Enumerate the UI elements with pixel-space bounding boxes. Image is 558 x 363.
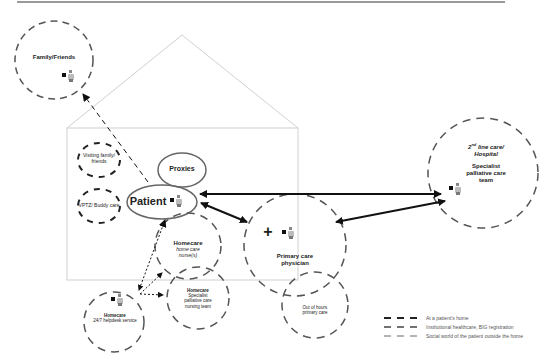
out-of-hours-line2: primary care [292, 310, 338, 315]
legend-label: At a patient's home [426, 315, 469, 321]
person-icon [111, 294, 123, 306]
person-icon [62, 70, 74, 82]
legend-thin-dash-icon [384, 334, 418, 338]
legend: At a patient's home Institutional health… [384, 313, 554, 340]
primary-care-line1: Primary care [262, 253, 328, 260]
visiting-family-line2: friends [78, 159, 120, 165]
hospital-line4: palliative care [453, 170, 519, 177]
hospital-label: 2nd line care/ Hospital Specialist palli… [453, 143, 519, 183]
person-icon [282, 227, 294, 239]
primary-care-line2: physician [262, 260, 328, 267]
legend-label: Institutional healthcare, BIG registrati… [426, 324, 514, 330]
primary-care-label: Primary care physician [262, 253, 328, 267]
proxies-label: Proxies [160, 165, 204, 173]
medical-cross-icon: + [258, 224, 278, 240]
arrow-patient-family [83, 94, 148, 182]
legend-item-social: Social world of the patient outside the … [384, 331, 554, 340]
hospital-line1: 2nd line care/ [453, 143, 519, 151]
legend-medium-dash-icon [384, 325, 418, 329]
person-icon [170, 195, 182, 207]
legend-label: Social world of the patient outside the … [426, 333, 523, 339]
arrow-primary-hospital [336, 201, 445, 222]
homecare-specialist-line3: nursing team [172, 304, 224, 309]
arrow-helpdesk-nurses [140, 273, 162, 294]
homecare-helpdesk-label: Homecare 24/7 helpdesk service [88, 313, 142, 323]
arrow-patient-primary [201, 203, 247, 222]
vptz-label: VPTZ/ Buddy care [76, 203, 122, 209]
legend-thick-dash-icon [384, 316, 418, 320]
person-icon [449, 183, 461, 195]
family-friends-label: Family/Friends [20, 54, 88, 61]
hospital-line2: Hospital [453, 151, 519, 158]
patient-label: Patient [128, 195, 168, 208]
arrow-helpdesk-specialist [140, 294, 163, 295]
out-of-hours-label: Out of hours primary care [292, 305, 338, 315]
legend-item-home: At a patient's home [384, 313, 554, 322]
legend-item-institutional: Institutional healthcare, BIG registrati… [384, 322, 554, 331]
hospital-line5: team [453, 177, 519, 184]
hospital-line3: Specialist [453, 163, 519, 170]
homecare-nurses-label: Homecare home care nurse(s) [160, 240, 216, 258]
visiting-family-label: Visiting family/ friends [78, 153, 120, 165]
homecare-helpdesk-line1: 24/7 helpdesk service [88, 318, 142, 323]
homecare-nurses-line2: nurse(s) [160, 253, 216, 259]
primary-care-circle [244, 194, 346, 296]
homecare-specialist-label: Homecare Specialist palliative care nurs… [172, 288, 224, 309]
